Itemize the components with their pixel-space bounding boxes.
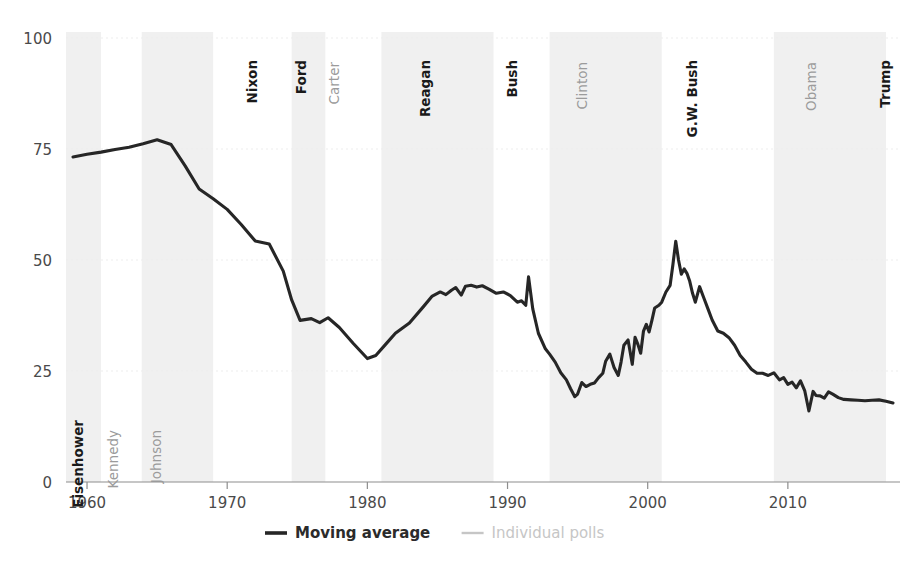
president-label-clinton: Clinton: [574, 62, 590, 110]
presidency-band-johnson: [142, 32, 213, 482]
legend-label-individual-polls[interactable]: Individual polls: [492, 524, 605, 542]
president-label-carter: Carter: [326, 62, 342, 105]
y-axis-tick-labels: 0255075100: [23, 30, 52, 492]
presidency-band-obama: [774, 32, 886, 482]
chart-legend[interactable]: Moving averageIndividual polls: [265, 524, 604, 542]
president-label-reagan: Reagan: [417, 60, 433, 117]
president-label-trump: Trump: [877, 60, 893, 108]
presidency-band-reagan: [381, 32, 493, 482]
president-label-g-w-bush: G.W. Bush: [684, 60, 700, 137]
y-tick-label-25: 25: [33, 363, 52, 381]
x-tick-label-1990: 1990: [488, 494, 526, 512]
president-label-ford: Ford: [293, 60, 309, 94]
x-tick-label-2010: 2010: [769, 494, 807, 512]
y-tick-label-50: 50: [33, 252, 52, 270]
y-tick-label-100: 100: [23, 30, 52, 48]
x-tick-label-1970: 1970: [208, 494, 246, 512]
president-label-nixon: Nixon: [244, 60, 260, 104]
president-label-kennedy: Kennedy: [105, 430, 121, 488]
president-label-eisenhower: Eisenhower: [70, 420, 86, 508]
y-tick-label-75: 75: [33, 141, 52, 159]
presidency-band-ford: [292, 32, 326, 482]
presidential-approval-line-chart: 0255075100 196019701980199020002010 Eise…: [0, 0, 908, 586]
x-tick-label-2000: 2000: [629, 494, 667, 512]
presidency-band-eisenhower: [66, 32, 101, 482]
presidency-shaded-bands: [66, 32, 886, 482]
y-tick-label-0: 0: [42, 474, 52, 492]
x-tick-label-1980: 1980: [348, 494, 386, 512]
legend-label-moving-average[interactable]: Moving average: [295, 524, 430, 542]
president-label-obama: Obama: [803, 62, 819, 111]
president-label-johnson: Johnson: [148, 430, 164, 484]
president-label-bush: Bush: [504, 60, 520, 98]
x-axis-tick-labels: 196019701980199020002010: [68, 494, 807, 512]
axes: [66, 482, 900, 489]
chart-figure: 0255075100 196019701980199020002010 Eise…: [0, 0, 908, 586]
presidency-band-clinton: [550, 32, 662, 482]
